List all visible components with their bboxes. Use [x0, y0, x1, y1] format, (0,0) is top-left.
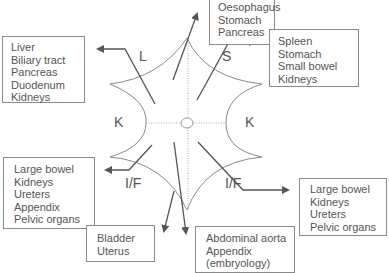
organ-label: (embryology) — [206, 257, 286, 270]
box-top-center: Oesophagus Stomach Pancreas — [209, 0, 275, 45]
organ-label: Large bowel — [310, 183, 378, 196]
box-lower-left: Large bowel Kidneys Ureters Appendix Pel… — [3, 157, 95, 229]
organ-label: Kidneys — [278, 73, 350, 86]
box-upper-right: Spleen Stomach Small bowel Kidneys — [269, 29, 359, 87]
organ-label: Pelvic organs — [14, 213, 86, 226]
organ-label: Kidneys — [14, 176, 86, 189]
organ-label: Oesophagus — [218, 1, 266, 14]
organ-label: Ureters — [310, 208, 378, 221]
organ-label: Liver — [11, 41, 76, 54]
organ-label: Small bowel — [278, 60, 350, 73]
organ-label: Ureters — [14, 188, 86, 201]
organ-label: Appendix — [206, 245, 286, 258]
region-label-left: K — [114, 114, 123, 130]
organ-label: Kidneys — [11, 91, 76, 104]
umbilicus-circle — [181, 118, 193, 128]
organ-label: Kidneys — [310, 196, 378, 209]
organ-label: Appendix — [14, 201, 86, 214]
organ-label: Bladder — [97, 232, 146, 245]
organ-label: Large bowel — [14, 163, 86, 176]
region-label-upper-left: L — [139, 48, 147, 64]
organ-label: Stomach — [278, 48, 350, 61]
region-label-lower-right: I/F — [225, 175, 241, 191]
region-label-lower-left: I/F — [125, 175, 141, 191]
organ-label: Spleen — [278, 35, 350, 48]
box-upper-left: Liver Biliary tract Pancreas Duodenum Ki… — [2, 36, 85, 103]
box-bottom-left: Bladder Uterus — [86, 225, 155, 262]
box-bottom-center: Abdominal aorta Appendix (embryology) — [195, 226, 295, 273]
organ-label: Abdominal aorta — [206, 232, 286, 245]
organ-label: Pelvic organs — [310, 221, 378, 234]
organ-label: Biliary tract — [11, 54, 76, 67]
organ-label: Uterus — [97, 245, 146, 258]
organ-label: Stomach — [218, 14, 266, 27]
organ-label: Pancreas — [218, 26, 266, 39]
region-label-upper-right: S — [222, 48, 231, 64]
region-label-right: K — [245, 114, 254, 130]
box-lower-right: Large bowel Kidneys Ureters Pelvic organ… — [299, 178, 387, 236]
organ-label: Duodenum — [11, 79, 76, 92]
organ-label: Pancreas — [11, 66, 76, 79]
